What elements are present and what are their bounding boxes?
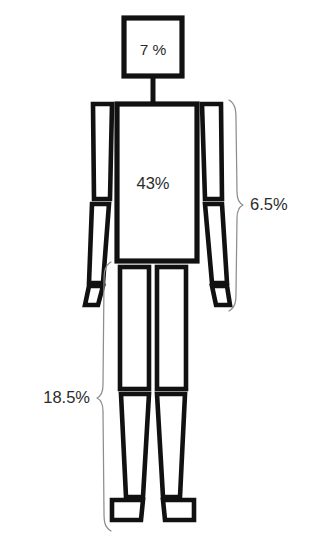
foot-right xyxy=(163,500,194,520)
arm-percentage-label: 6.5% xyxy=(250,195,288,213)
upper-arm-right xyxy=(202,104,222,199)
shank-right xyxy=(157,394,185,497)
foot-left xyxy=(112,500,143,520)
arm-brace xyxy=(229,100,243,311)
torso-percentage-label: 43% xyxy=(136,174,169,192)
forearm-right xyxy=(205,204,227,283)
body-diagram-svg: 7 % 43% 6.5% 18.5% xyxy=(0,0,321,537)
thigh-left xyxy=(120,267,149,389)
leg-percentage-label: 18.5% xyxy=(43,388,90,406)
upper-arm-left xyxy=(93,104,112,199)
forearm-left xyxy=(89,204,109,283)
hand-left xyxy=(85,286,103,305)
body-diagram-figure: 7 % 43% 6.5% 18.5% xyxy=(0,0,321,537)
thigh-right xyxy=(157,267,186,389)
hand-right xyxy=(212,286,230,305)
head-percentage-label: 7 % xyxy=(140,41,167,58)
shank-left xyxy=(121,394,149,497)
